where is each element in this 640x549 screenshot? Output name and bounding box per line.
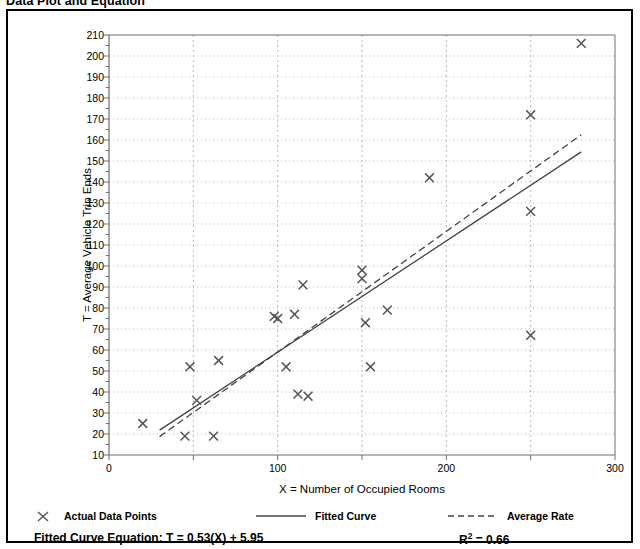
data-point-marker <box>358 266 367 275</box>
legend-item-0[interactable]: Actual Data Points <box>34 505 157 527</box>
legend-label: Average Rate <box>507 510 574 522</box>
data-points <box>109 35 615 455</box>
y-axis-tick-10: 10 <box>92 450 104 460</box>
chart-legend: Actual Data PointsFitted CurveAverage Ra… <box>8 505 635 527</box>
r2-number: = 0.66 <box>472 533 509 547</box>
y-axis-tick-50: 50 <box>92 366 104 376</box>
data-point-marker <box>273 314 282 323</box>
page-title: Data Plot and Equation <box>6 0 145 8</box>
x-marker-icon <box>34 509 56 523</box>
y-axis-tick-110: 110 <box>87 240 104 250</box>
data-point-marker <box>299 281 308 290</box>
x-axis-tick-100: 100 <box>269 463 287 474</box>
y-axis-tick-150: 150 <box>86 156 104 166</box>
y-axis-tick-140: 140 <box>86 177 104 187</box>
r-squared-value: R2 = 0.66 <box>459 531 509 547</box>
fitted-curve-equation: Fitted Curve Equation: T = 0.53(X) + 5.9… <box>34 531 263 545</box>
x-axis-tick-labels: 0100200300 <box>109 463 615 479</box>
data-point-marker <box>366 362 375 371</box>
x-axis-label: X = Number of Occupied Rooms <box>109 483 615 495</box>
data-point-marker <box>186 362 195 371</box>
data-point-marker <box>383 306 392 315</box>
y-axis-tick-90: 90 <box>92 282 104 292</box>
data-point-marker <box>192 396 201 405</box>
y-axis-tick-180: 180 <box>86 93 104 103</box>
data-point-marker <box>425 173 434 182</box>
data-point-marker <box>138 419 147 428</box>
legend-item-2[interactable]: Average Rate <box>448 505 574 527</box>
y-axis-tick-labels: 1020304050607080901001101201301401501601… <box>60 35 104 455</box>
data-point-marker <box>526 207 535 216</box>
y-axis-tick-100: 100 <box>86 261 104 271</box>
y-axis-tick-30: 30 <box>92 408 104 418</box>
y-axis-tick-200: 200 <box>86 51 104 61</box>
r2-symbol: R <box>459 533 468 547</box>
data-point-marker <box>526 331 535 340</box>
data-point-marker <box>181 432 190 441</box>
y-axis-tick-120: 120 <box>86 219 104 229</box>
x-axis-tick-0: 0 <box>106 463 112 474</box>
legend-item-1[interactable]: Fitted Curve <box>256 505 376 527</box>
y-axis-tick-130: 130 <box>86 198 104 208</box>
plot-inner <box>109 35 615 455</box>
x-axis-tick-300: 300 <box>606 463 624 474</box>
data-point-marker <box>304 392 313 401</box>
data-point-marker <box>282 362 291 371</box>
chart-frame: T = Average Vehicle Trip Ends 1020304050… <box>6 9 633 543</box>
y-axis-tick-20: 20 <box>92 429 104 439</box>
chart-footer: Fitted Curve Equation: T = 0.53(X) + 5.9… <box>8 531 635 549</box>
y-axis-label-wrap: T = Average Vehicle Trip Ends <box>38 35 58 455</box>
y-axis-tick-170: 170 <box>86 114 104 124</box>
y-axis-tick-60: 60 <box>92 345 104 355</box>
y-axis-tick-210: 210 <box>86 30 104 40</box>
data-point-marker <box>577 39 586 48</box>
data-point-marker <box>361 318 370 327</box>
data-point-marker <box>358 274 367 283</box>
legend-label: Actual Data Points <box>64 510 157 522</box>
y-axis-tick-70: 70 <box>92 324 104 334</box>
y-axis-tick-190: 190 <box>86 72 104 82</box>
plot-area <box>109 35 615 455</box>
y-axis-tick-40: 40 <box>92 387 104 397</box>
solid-line-icon <box>256 509 308 523</box>
data-point-marker <box>214 356 223 365</box>
data-point-marker <box>294 390 303 399</box>
dashed-line-icon <box>448 509 500 523</box>
y-axis-tick-80: 80 <box>92 303 104 313</box>
legend-label: Fitted Curve <box>315 510 376 522</box>
data-point-marker <box>526 110 535 119</box>
x-axis-tick-200: 200 <box>438 463 456 474</box>
y-axis-tick-160: 160 <box>86 135 104 145</box>
data-point-marker <box>209 432 218 441</box>
data-point-marker <box>290 310 299 319</box>
